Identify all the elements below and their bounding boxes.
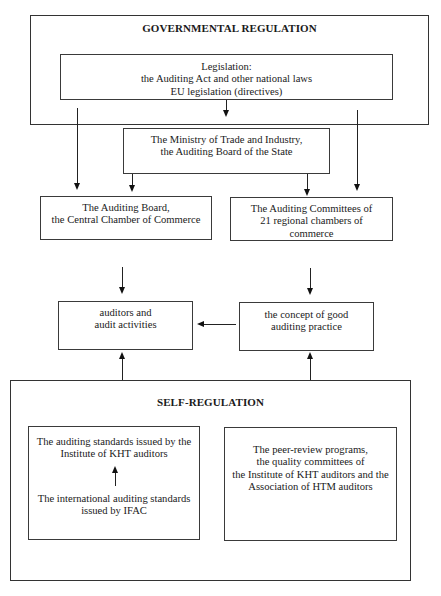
connector-ministry-board (132, 174, 133, 185)
arrow-up-icon (119, 352, 125, 359)
ifac-standards-line-1: The international auditing standards (29, 493, 199, 505)
ifac-standards-line-2: issued by IFAC (29, 505, 199, 517)
auditing-board-line-1: The Auditing Board, (41, 202, 211, 214)
arrow-down-icon (223, 110, 229, 117)
concept-box: the concept of good auditing practice (239, 302, 374, 351)
auditors-line-1: auditors and (59, 307, 192, 319)
connector-gov-auditors (122, 267, 123, 287)
auditing-committees-line-1: The Auditing Committees of (231, 203, 392, 215)
peer-review-line-1: The peer-review programs, (225, 444, 396, 456)
arrow-down-icon (354, 184, 360, 191)
connector-left-side (77, 108, 78, 184)
arrow-left-icon (197, 321, 204, 327)
ministry-line-1: The Ministry of Trade and Industry, (124, 134, 329, 146)
auditors-box: auditors and audit activities (58, 301, 193, 350)
arrow-down-icon (307, 288, 313, 295)
connector-concept-auditors (204, 324, 236, 325)
legislation-line-3: EU legislation (directives) (61, 86, 392, 98)
self-regulation-title: SELF-REGULATION (11, 396, 410, 408)
auditing-board-box: The Auditing Board, the Central Chamber … (40, 196, 212, 240)
connector-gov-concept (310, 268, 311, 288)
auditing-board-line-2: the Central Chamber of Commerce (41, 214, 211, 226)
arrow-down-icon (74, 183, 80, 190)
peer-review-box: The peer-review programs, the quality co… (224, 427, 397, 541)
khf-standards-line-2: Institute of KHT auditors (29, 448, 199, 460)
concept-line-1: the concept of good (240, 309, 373, 321)
ministry-line-2: the Auditing Board of the State (124, 146, 329, 158)
peer-review-line-4: Association of HTM auditors (225, 481, 396, 493)
connector-self-auditors (122, 359, 123, 381)
connector-ministry-committees (307, 174, 308, 189)
peer-review-line-2: the quality committees of (225, 456, 396, 468)
auditors-line-2: audit activities (59, 319, 192, 331)
ministry-box: The Ministry of Trade and Industry, the … (123, 128, 330, 174)
concept-line-2: auditing practice (240, 321, 373, 333)
arrow-up-icon (307, 352, 313, 359)
legislation-box: Legislation: the Auditing Act and other … (60, 54, 393, 100)
connector-right-side (357, 110, 358, 185)
arrow-down-icon (129, 185, 135, 192)
auditing-committees-line-2: 21 regional chambers of (231, 215, 392, 227)
legislation-line-1: Legislation: (61, 61, 392, 73)
khf-standards-line-1: The auditing standards issued by the (29, 436, 199, 448)
connector-ifac-khf (115, 472, 116, 486)
arrow-down-icon (304, 189, 310, 196)
auditing-committees-line-3: commerce (231, 228, 392, 240)
legislation-line-2: the Auditing Act and other national laws (61, 73, 392, 85)
connector-self-concept (310, 359, 311, 381)
arrow-down-icon (119, 287, 125, 294)
connector-legislation-ministry (226, 100, 227, 110)
arrow-up-icon (112, 466, 118, 473)
auditing-standards-box: The auditing standards issued by the Ins… (28, 426, 200, 540)
auditing-committees-box: The Auditing Committees of 21 regional c… (230, 197, 393, 241)
governmental-regulation-title: GOVERNMENTAL REGULATION (31, 22, 428, 34)
peer-review-line-3: the Institute of KHT auditors and the (225, 469, 396, 481)
